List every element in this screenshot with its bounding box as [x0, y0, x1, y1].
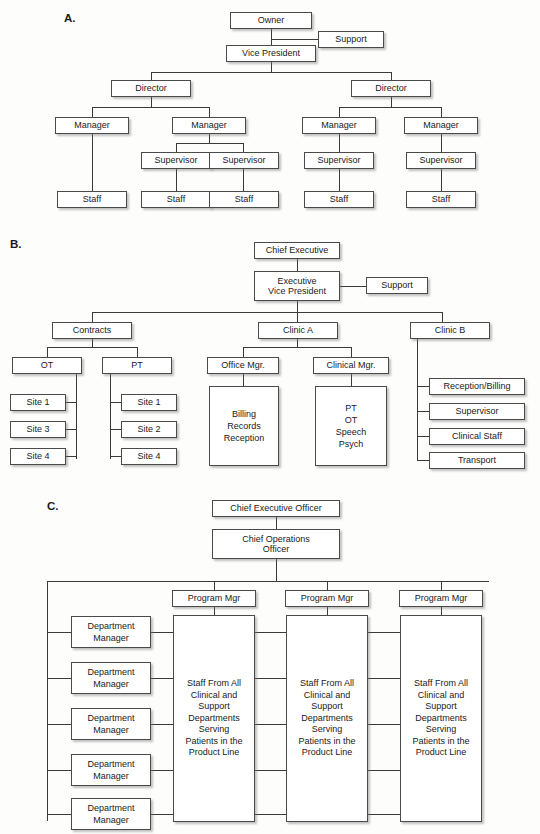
- node-owner[interactable]: Owner: [230, 12, 312, 29]
- node-supervisor-3[interactable]: Supervisor: [304, 152, 374, 169]
- node-director-right[interactable]: Director: [351, 80, 431, 97]
- section-b-label: B.: [10, 238, 22, 250]
- node-manager-4[interactable]: Manager: [404, 117, 478, 134]
- connector-pt-spine: [110, 374, 111, 459]
- node-department-manager-5[interactable]: Department Manager: [71, 798, 151, 830]
- node-program-mgr-3[interactable]: Program Mgr: [399, 590, 483, 607]
- connector-contracts-down: [92, 339, 93, 347]
- connector-division-bus: [92, 312, 442, 313]
- node-clinic-b-reception-billing[interactable]: Reception/Billing: [429, 378, 525, 395]
- connector-clinica-drop: [297, 312, 298, 322]
- connector-officemgr-drop: [243, 347, 244, 357]
- node-product-line-3[interactable]: Staff From All Clinical and Support Depa…: [400, 615, 482, 822]
- connector-dirR-bus: [339, 107, 441, 108]
- connector-sup1-staff2: [176, 169, 177, 191]
- connector-c-main-bus: [47, 581, 489, 582]
- connector-pt-site1: [110, 402, 121, 403]
- node-program-mgr-2[interactable]: Program Mgr: [285, 590, 369, 607]
- node-pt-site-4[interactable]: Site 4: [121, 448, 177, 465]
- node-manager-3[interactable]: Manager: [302, 117, 376, 134]
- connector-officemgr-staff: [243, 374, 244, 386]
- connector-evp-down: [297, 301, 298, 312]
- node-program-mgr-1[interactable]: Program Mgr: [172, 590, 256, 607]
- node-support-b[interactable]: Support: [366, 277, 428, 294]
- connector-mgr4-sup4: [441, 134, 442, 152]
- connector-ot-site4: [66, 456, 77, 457]
- node-director-left[interactable]: Director: [111, 80, 191, 97]
- connector-clinica-bus: [243, 347, 351, 348]
- connector-clinicalmgr-drop: [351, 347, 352, 357]
- connector-sup2-staff3: [243, 169, 244, 191]
- node-staff-1[interactable]: Staff: [57, 191, 127, 208]
- node-clinic-b-supervisor[interactable]: Supervisor: [429, 403, 525, 420]
- connector-mgr2-drop: [209, 107, 210, 117]
- connector-clinicb-supervisor: [417, 411, 429, 412]
- node-ot-site-3[interactable]: Site 3: [10, 421, 66, 438]
- node-ot-site-4[interactable]: Site 4: [10, 448, 66, 465]
- node-staff-5[interactable]: Staff: [406, 191, 476, 208]
- node-office-mgr[interactable]: Office Mgr.: [207, 357, 279, 374]
- node-ceo[interactable]: Chief Executive Officer: [212, 500, 340, 517]
- node-staff-2[interactable]: Staff: [141, 191, 211, 208]
- connector-mgr2-down: [209, 134, 210, 143]
- node-contracts[interactable]: Contracts: [52, 322, 132, 339]
- node-manager-2[interactable]: Manager: [172, 117, 246, 134]
- connector-owner-vp: [271, 29, 272, 45]
- node-supervisor-1[interactable]: Supervisor: [141, 152, 211, 169]
- connector-pt-site4: [110, 456, 121, 457]
- node-ot-site-1[interactable]: Site 1: [10, 394, 66, 411]
- node-office-mgr-staff[interactable]: Billing Records Reception: [209, 386, 279, 466]
- node-support-a[interactable]: Support: [318, 31, 384, 48]
- node-clinic-b-transport[interactable]: Transport: [429, 452, 525, 469]
- node-vice-president[interactable]: Vice President: [226, 45, 316, 62]
- node-clinical-mgr[interactable]: Clinical Mgr.: [313, 357, 389, 374]
- node-clinic-b-clinical-staff[interactable]: Clinical Staff: [429, 428, 525, 445]
- node-product-line-1[interactable]: Staff From All Clinical and Support Depa…: [173, 615, 255, 822]
- node-staff-4[interactable]: Staff: [304, 191, 374, 208]
- connector-sup3-staff4: [339, 169, 340, 191]
- connector-evp-support: [340, 286, 366, 287]
- node-clinic-b[interactable]: Clinic B: [410, 322, 490, 339]
- node-chief-executive[interactable]: Chief Executive: [254, 242, 340, 259]
- connector-pm3-pl3: [441, 607, 442, 615]
- node-executive-vice-president[interactable]: Executive Vice President: [254, 271, 340, 301]
- connector-coo-down: [276, 559, 277, 581]
- node-supervisor-4[interactable]: Supervisor: [406, 152, 476, 169]
- node-supervisor-2[interactable]: Supervisor: [209, 152, 279, 169]
- connector-mgr4-drop: [441, 107, 442, 117]
- node-clinical-mgr-staff[interactable]: PT OT Speech Psych: [315, 386, 387, 466]
- node-pt-site-2[interactable]: Site 2: [121, 421, 177, 438]
- node-department-manager-2[interactable]: Department Manager: [71, 662, 151, 694]
- section-a-label: A.: [64, 12, 76, 24]
- node-coo[interactable]: Chief Operations Officer: [212, 529, 340, 559]
- section-c-label: C.: [47, 500, 59, 512]
- connector-ce-evp: [297, 259, 298, 271]
- connector-contracts-drop: [92, 312, 93, 322]
- node-staff-3[interactable]: Staff: [209, 191, 279, 208]
- node-manager-1[interactable]: Manager: [55, 117, 129, 134]
- connector-clinicb-drop: [442, 312, 443, 322]
- node-pt[interactable]: PT: [102, 357, 172, 374]
- node-pt-site-1[interactable]: Site 1: [121, 394, 177, 411]
- connector-ceo-coo: [276, 517, 277, 529]
- node-department-manager-3[interactable]: Department Manager: [71, 708, 151, 740]
- node-product-line-2[interactable]: Staff From All Clinical and Support Depa…: [286, 615, 368, 822]
- connector-sup1-drop: [176, 143, 177, 152]
- connector-mgr3-drop: [339, 107, 340, 117]
- connector-ot-site1: [66, 402, 77, 403]
- connector-mgr3-sup3: [339, 134, 340, 152]
- connector-clinicb-clinical: [417, 436, 429, 437]
- connector-contracts-bus: [47, 347, 137, 348]
- connector-director-bus: [151, 72, 392, 73]
- connector-c-left-spine: [47, 581, 48, 821]
- node-clinic-a[interactable]: Clinic A: [258, 322, 338, 339]
- node-department-manager-4[interactable]: Department Manager: [71, 754, 151, 786]
- connector-director-right-drop: [391, 72, 392, 80]
- connector-dirL-bus: [92, 107, 209, 108]
- connector-pt-site2: [110, 429, 121, 430]
- connector-pm2-drop: [327, 581, 328, 590]
- node-ot[interactable]: OT: [12, 357, 82, 374]
- connector-pm1-drop: [214, 581, 215, 590]
- node-department-manager-1[interactable]: Department Manager: [71, 616, 151, 648]
- connector-pm1-pl1: [214, 607, 215, 615]
